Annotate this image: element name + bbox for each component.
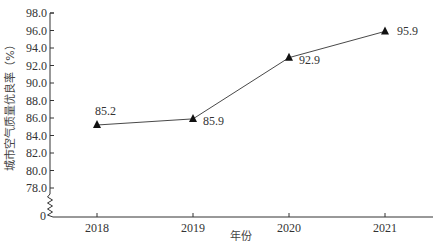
y-tick-label: 96.0 <box>26 24 47 38</box>
y-tick-label: 86.0 <box>26 111 47 125</box>
y-tick-label: 78.0 <box>26 181 47 195</box>
y-tick-label: 82.0 <box>26 146 47 160</box>
y-axis: 98.096.094.092.090.088.086.084.082.080.0… <box>26 6 54 223</box>
y-tick-label: 98.0 <box>26 6 47 20</box>
x-tick-label: 2020 <box>277 221 301 235</box>
y-tick-label: 90.0 <box>26 76 47 90</box>
y-tick-label: 84.0 <box>26 129 47 143</box>
data-label: 85.2 <box>95 104 116 118</box>
data-point-marker <box>381 26 389 34</box>
data-label: 85.9 <box>203 114 224 128</box>
data-label: 92.9 <box>299 53 320 67</box>
line-chart: 98.096.094.092.090.088.086.084.082.080.0… <box>0 0 433 247</box>
data-label: 95.9 <box>397 24 418 38</box>
y-origin-label: 0 <box>40 209 46 223</box>
y-axis-break <box>48 194 54 217</box>
y-axis-title: 城市空气质量优良率（%） <box>3 39 17 170</box>
y-tick-label: 88.0 <box>26 94 47 108</box>
y-tick-label: 92.0 <box>26 59 47 73</box>
x-tick-label: 2021 <box>373 221 397 235</box>
x-tick-label: 2019 <box>181 221 205 235</box>
y-tick-label: 80.0 <box>26 164 47 178</box>
series-line <box>97 31 385 125</box>
series-group: 85.285.992.995.9 <box>93 24 418 128</box>
y-tick-label: 94.0 <box>26 41 47 55</box>
data-point-marker <box>93 120 101 128</box>
data-point-marker <box>189 114 197 122</box>
x-axis-title: 年份 <box>230 229 252 243</box>
x-tick-label: 2018 <box>85 221 109 235</box>
